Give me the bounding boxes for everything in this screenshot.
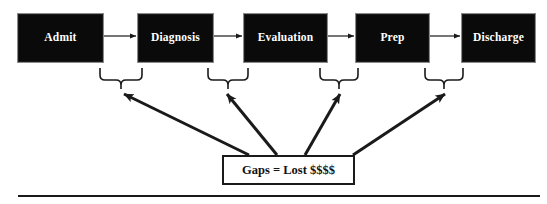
gap-brace-4 [425,68,463,89]
callout-arrow-3 [305,94,340,155]
process-box-admit[interactable]: Admit [17,13,104,63]
callout-arrow-2 [227,94,277,155]
gap-brace-2 [208,68,248,89]
gap-braces-group [100,68,463,89]
process-box-diagnosis-label: Diagnosis [151,32,200,44]
process-box-admit-label: Admit [44,32,76,44]
diagram-canvas: Admit Diagnosis Evaluation Prep Discharg… [0,0,547,204]
gap-brace-3 [320,68,358,89]
process-box-prep[interactable]: Prep [355,13,430,63]
callout-arrow-1 [124,94,249,155]
process-box-prep-label: Prep [380,32,404,44]
process-box-diagnosis[interactable]: Diagnosis [137,13,214,63]
gaps-callout-box[interactable]: Gaps = Lost $$$$ [222,155,355,185]
gap-brace-1 [100,68,142,89]
process-box-evaluation-label: Evaluation [258,32,314,44]
process-box-discharge-label: Discharge [473,32,524,44]
process-box-discharge[interactable]: Discharge [461,13,536,63]
process-box-evaluation[interactable]: Evaluation [243,13,328,63]
callout-arrow-4 [353,94,445,155]
gaps-callout-label: Gaps = Lost $$$$ [242,164,335,177]
callout-arrows-group [124,94,445,155]
